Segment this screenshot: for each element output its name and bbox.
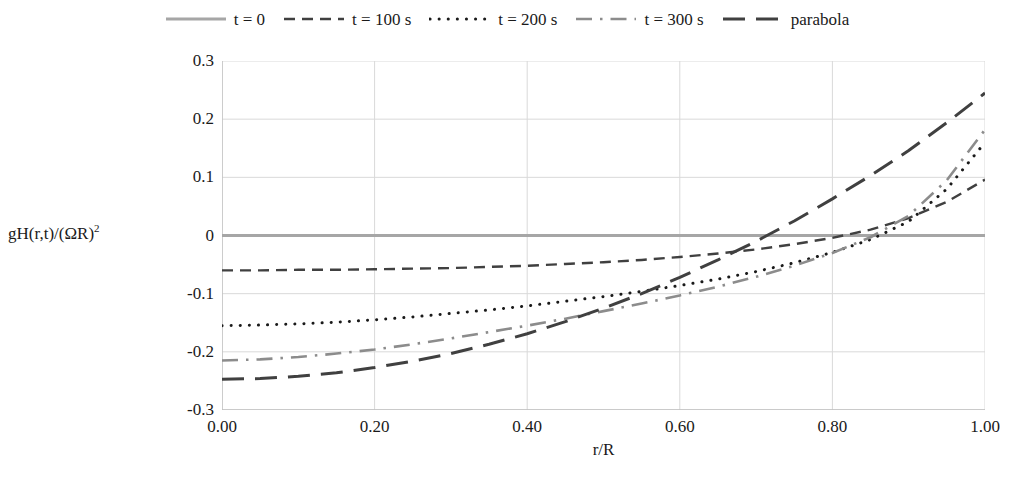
y-tick-label: 0 — [144, 227, 214, 244]
y-tick-label: 0.1 — [144, 168, 214, 185]
legend-label-t-300-s: t = 300 s — [644, 11, 703, 28]
legend-label-t-200-s: t = 200 s — [498, 11, 557, 28]
legend-label-t-0: t = 0 — [234, 11, 265, 28]
x-tick-label: 0.60 — [640, 418, 720, 435]
x-tick-label: 0.20 — [335, 418, 415, 435]
legend-label-parabola: parabola — [791, 11, 850, 28]
y-tick-label: -0.3 — [144, 401, 214, 418]
plot-svg — [222, 61, 985, 410]
y-tick-label: -0.2 — [144, 343, 214, 360]
y-tick-label: 0.2 — [144, 110, 214, 127]
y-axis-title-exponent: 2 — [94, 222, 100, 234]
legend-item-t-100-s[interactable]: t = 100 s — [283, 11, 411, 28]
y-tick-label: 0.3 — [144, 52, 214, 69]
legend-swatch-t-200-s — [429, 12, 491, 26]
y-axis-tick-labels: 0.30.20.10-0.1-0.2-0.3 — [142, 0, 214, 482]
series-line-t-300-s — [222, 130, 985, 361]
legend-swatch-t-300-s — [575, 12, 637, 26]
x-axis-title: r/R — [222, 440, 985, 460]
y-tick-label: -0.1 — [144, 285, 214, 302]
x-tick-label: 0.40 — [487, 418, 567, 435]
y-axis-title: gH(r,t)/(ΩR)2 — [8, 222, 100, 244]
legend-swatch-parabola — [722, 12, 784, 26]
legend-label-t-100-s: t = 100 s — [352, 11, 411, 28]
x-axis-tick-labels: 0.000.200.400.600.801.00 — [0, 418, 1014, 442]
series-line-t-100-s — [222, 180, 985, 271]
x-tick-label: 0.00 — [182, 418, 262, 435]
legend-item-parabola[interactable]: parabola — [722, 11, 850, 28]
x-tick-label: 0.80 — [792, 418, 872, 435]
legend-item-t-200-s[interactable]: t = 200 s — [429, 11, 557, 28]
x-tick-label: 1.00 — [945, 418, 1014, 435]
data-series-group — [222, 93, 985, 379]
y-axis-title-text: gH(r,t)/(ΩR) — [8, 224, 94, 243]
legend-item-t-300-s[interactable]: t = 300 s — [575, 11, 703, 28]
chart-figure: t = 0t = 100 st = 200 st = 300 sparabola… — [0, 0, 1014, 482]
plot-area — [222, 61, 985, 410]
legend-swatch-t-100-s — [283, 12, 345, 26]
